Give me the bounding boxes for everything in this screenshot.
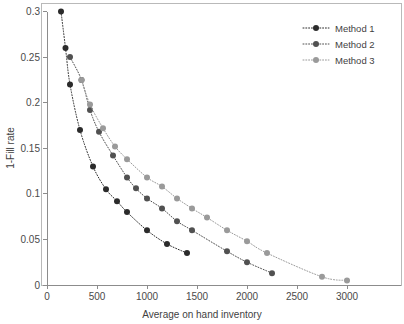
x-axis-title: Average on hand inventory [142, 309, 261, 320]
legend-marker-icon [313, 25, 319, 31]
y-tick-label: 0.05 [21, 234, 41, 245]
data-point-marker: Method 1: (230, 0.22) [67, 81, 73, 87]
data-point-marker: Method 3: (1800, 0.06) [224, 227, 230, 233]
data-point-marker: Method 1: (700, 0.092) [114, 198, 120, 204]
y-tick-label: 0.2 [26, 97, 40, 108]
x-tick-label: 1000 [136, 291, 159, 302]
data-point-marker: Method 1: (1200, 0.045) [164, 241, 170, 247]
y-axis-title: 1-Fill rate [5, 127, 16, 169]
data-point-marker: Method 3: (1300, 0.095) [174, 195, 180, 201]
data-point-marker: Method 1: (590, 0.105) [103, 186, 109, 192]
data-point-marker: Method 1: (330, 0.17) [77, 127, 83, 133]
data-point-marker: Method 3: (345, 0.225) [79, 77, 85, 83]
data-point-marker: Method 3: (2750, 0.009) [319, 274, 325, 280]
data-point-marker: Method 1: (140, 0.3) [58, 9, 64, 15]
data-point-marker: Method 3: (1150, 0.108) [159, 184, 165, 190]
data-point-marker: Method 3: (1000, 0.118) [144, 174, 150, 180]
data-point-marker: Method 2: (1000, 0.095) [144, 195, 150, 201]
y-tick-label: 0.15 [21, 143, 41, 154]
data-point-marker: Method 2: (1800, 0.037) [224, 248, 230, 254]
x-tick-label: 2500 [286, 291, 309, 302]
legend-label: Method 1 [335, 23, 375, 34]
data-point-marker: Method 2: (660, 0.142) [110, 153, 116, 159]
data-point-marker: Method 1: (460, 0.13) [90, 163, 96, 169]
legend-marker-icon [313, 41, 319, 47]
legend-label: Method 2 [335, 39, 375, 50]
data-point-marker: Method 3: (1600, 0.074) [204, 215, 210, 221]
y-tick-label: 0.3 [26, 6, 40, 17]
data-point-marker: Method 2: (1300, 0.07) [174, 218, 180, 224]
data-point-marker: Method 3: (560, 0.172) [100, 125, 106, 131]
data-point-marker: Method 2: (1150, 0.084) [159, 205, 165, 211]
data-point-marker: Method 3: (3000, 0.005) [344, 277, 350, 283]
y-tick-label: 0 [34, 280, 40, 291]
legend-marker-icon [313, 57, 319, 63]
data-point-marker: Method 1: (1400, 0.035) [184, 250, 190, 256]
chart-figure: 050010001500200025003000 00.050.10.150.2… [0, 0, 404, 324]
data-point-marker: Method 1: (1000, 0.06) [144, 227, 150, 233]
data-point-marker: Method 2: (1450, 0.06) [189, 227, 195, 233]
x-tick-label: 3000 [336, 291, 359, 302]
x-tick-label: 0 [44, 291, 50, 302]
data-point-marker: Method 2: (890, 0.106) [133, 185, 139, 191]
data-point-marker: Method 1: (185, 0.26) [63, 45, 69, 51]
data-point-marker: Method 3: (430, 0.198) [87, 101, 93, 107]
x-tick-label: 1500 [186, 291, 209, 302]
data-point-marker: Method 3: (2200, 0.035) [264, 250, 270, 256]
data-point-marker: Method 3: (1450, 0.084) [189, 205, 195, 211]
x-tick-label: 2000 [236, 291, 259, 302]
data-point-marker: Method 1: (800, 0.08) [124, 209, 130, 215]
data-point-marker: Method 2: (230, 0.25) [67, 54, 73, 60]
y-tick-label: 0.25 [21, 52, 41, 63]
y-tick-label: 0.1 [26, 188, 40, 199]
data-point-marker: Method 2: (800, 0.118) [124, 174, 130, 180]
data-point-marker: Method 3: (800, 0.138) [124, 156, 130, 162]
data-point-marker: Method 2: (2000, 0.025) [244, 259, 250, 265]
data-point-marker: Method 3: (680, 0.152) [112, 143, 118, 149]
scatter-chart: 050010001500200025003000 00.050.10.150.2… [0, 0, 404, 324]
legend-label: Method 3 [335, 55, 375, 66]
data-point-marker: Method 3: (2000, 0.048) [244, 238, 250, 244]
data-point-marker: Method 2: (2250, 0.013) [269, 270, 275, 276]
x-tick-label: 500 [89, 291, 106, 302]
